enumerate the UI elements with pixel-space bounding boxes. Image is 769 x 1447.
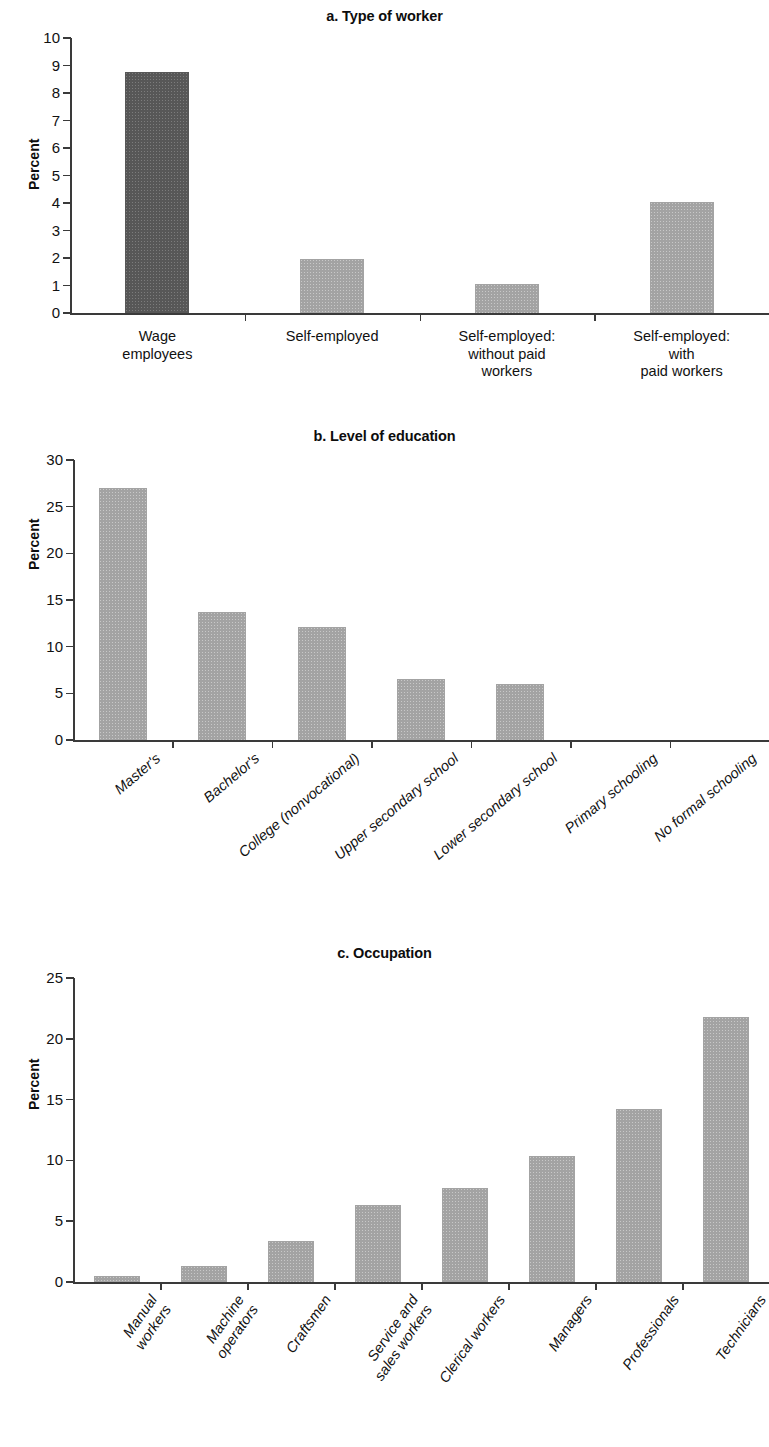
bar: [397, 679, 445, 740]
y-tick: [66, 1038, 74, 1040]
x-tick: [334, 1282, 336, 1290]
bar: [125, 72, 189, 313]
panel-occupation: c. Occupation Percent 0510152025Manual w…: [0, 930, 769, 1447]
x-tick-label: Wage employees: [72, 328, 242, 363]
y-tick-label: 20: [15, 545, 63, 560]
bar-fill: [616, 1109, 662, 1282]
x-tick: [420, 313, 422, 321]
bar: [442, 1188, 488, 1282]
y-tick-label: 10: [15, 1152, 63, 1167]
y-tick: [66, 599, 74, 601]
y-tick: [66, 693, 74, 695]
y-tick: [63, 92, 71, 94]
y-tick: [66, 1220, 74, 1222]
x-tick-label: Self-employed: without paid workers: [422, 328, 592, 381]
bar-fill: [298, 627, 346, 740]
x-tick: [594, 313, 596, 321]
y-tick: [66, 459, 74, 461]
y-tick-label: 3: [12, 223, 60, 238]
y-tick: [66, 506, 74, 508]
x-axis-line: [73, 740, 769, 742]
y-tick: [66, 1099, 74, 1101]
y-tick-label: 7: [12, 113, 60, 128]
y-tick-label: 6: [12, 140, 60, 155]
y-tick: [63, 230, 71, 232]
y-tick-label: 9: [12, 58, 60, 73]
y-tick-label: 4: [12, 195, 60, 210]
x-tick-label: Lower secondary school: [374, 750, 561, 911]
bar-fill: [198, 612, 246, 740]
x-tick: [570, 740, 572, 748]
bar: [300, 259, 364, 313]
y-tick: [63, 285, 71, 287]
x-tick: [272, 740, 274, 748]
y-tick: [63, 37, 71, 39]
bar: [99, 488, 147, 740]
bar: [268, 1241, 314, 1282]
x-tick: [471, 740, 473, 748]
x-tick: [371, 740, 373, 748]
x-tick: [421, 1282, 423, 1290]
y-tick-label: 5: [15, 685, 63, 700]
y-tick: [66, 739, 74, 741]
y-tick-label: 15: [15, 1092, 63, 1107]
bar: [198, 612, 246, 740]
bar: [181, 1266, 227, 1282]
panel-level-of-education: b. Level of education Percent 0510152025…: [0, 420, 769, 930]
y-tick-label: 25: [15, 970, 63, 985]
y-tick: [66, 977, 74, 979]
bar: [616, 1109, 662, 1282]
bar-fill: [125, 72, 189, 313]
bar-fill: [650, 202, 714, 313]
y-tick-label: 10: [15, 639, 63, 654]
y-tick: [63, 147, 71, 149]
bar-fill: [355, 1205, 401, 1282]
bar: [355, 1205, 401, 1282]
x-tick-label: College (nonvocational): [175, 750, 362, 911]
y-tick-label: 2: [12, 250, 60, 265]
y-tick: [63, 202, 71, 204]
bar: [650, 202, 714, 313]
y-tick: [63, 175, 71, 177]
bar-fill: [300, 259, 364, 313]
bar-fill: [496, 684, 544, 740]
x-tick-label: Primary schooling: [474, 750, 661, 911]
x-tick: [595, 1282, 597, 1290]
bar-fill: [529, 1156, 575, 1282]
y-tick-label: 8: [12, 85, 60, 100]
bar: [496, 684, 544, 740]
x-tick-label: Managers: [450, 1292, 596, 1447]
bar-fill: [442, 1188, 488, 1282]
x-tick: [670, 740, 672, 748]
x-tick-label: Self-employed: with paid workers: [597, 328, 767, 381]
bar-fill: [94, 1276, 140, 1282]
y-tick-label: 15: [15, 592, 63, 607]
x-tick-label: Professionals: [537, 1292, 683, 1447]
x-tick: [245, 313, 247, 321]
y-tick: [66, 1281, 74, 1283]
y-tick-label: 0: [15, 732, 63, 747]
bar-fill: [475, 284, 539, 313]
x-tick-label: No formal schooling: [573, 750, 760, 911]
bar: [475, 284, 539, 313]
y-tick: [66, 646, 74, 648]
x-tick: [160, 1282, 162, 1290]
y-tick-label: 30: [15, 452, 63, 467]
x-tick-label: Upper secondary school: [275, 750, 462, 911]
bar: [703, 1017, 749, 1282]
y-tick: [63, 312, 71, 314]
panel-type-of-worker: a. Type of worker Percent 012345678910Wa…: [0, 0, 769, 420]
bar: [94, 1276, 140, 1282]
y-tick-label: 0: [15, 1274, 63, 1289]
y-tick-label: 25: [15, 499, 63, 514]
panel-b-plot-area: 051015202530Master'sBachelor'sCollege (n…: [0, 420, 769, 930]
y-tick: [63, 257, 71, 259]
y-tick-label: 5: [15, 1213, 63, 1228]
y-tick-label: 0: [12, 305, 60, 320]
y-axis-line: [73, 978, 75, 1283]
y-tick: [63, 65, 71, 67]
bar-fill: [268, 1241, 314, 1282]
y-tick-label: 10: [12, 30, 60, 45]
bar-fill: [99, 488, 147, 740]
y-tick-label: 5: [12, 168, 60, 183]
